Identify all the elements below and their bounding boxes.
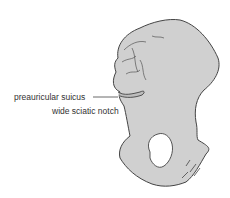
preauricular-sulcus-label: preauricular suicus <box>14 92 85 102</box>
sciatic-notch-label: wide sciatic notch <box>52 106 119 116</box>
